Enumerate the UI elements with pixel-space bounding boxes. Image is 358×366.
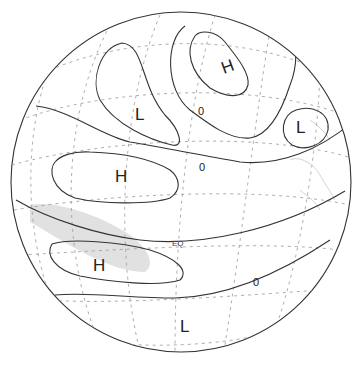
- label-low-south: L: [180, 317, 189, 336]
- label-high-south: H: [93, 256, 105, 275]
- equator-label: EQ: [172, 239, 184, 248]
- label-low-northwest: L: [135, 105, 144, 124]
- label-high-central: H: [115, 167, 127, 186]
- label-zero-1: 0: [198, 105, 204, 117]
- label-zero-3: 0: [253, 276, 259, 288]
- globe-outline: [11, 12, 351, 352]
- label-zero-2: 0: [199, 161, 205, 173]
- globe-diagram: H L L H H L 0 0 0 EQ: [0, 0, 358, 366]
- label-low-east: L: [296, 118, 305, 137]
